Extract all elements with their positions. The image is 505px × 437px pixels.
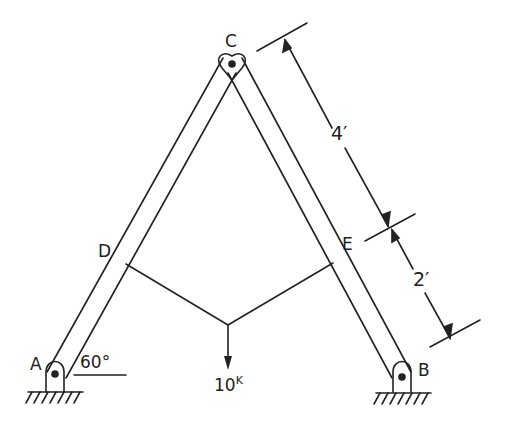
angle-label: 60° [80, 354, 110, 371]
member-cb-inner [228, 73, 392, 378]
load-value: 10 [214, 375, 236, 395]
dim-ext-mid [365, 214, 415, 241]
dim-4ft-line-lower [345, 148, 388, 226]
dim-4ft-label: 4′ [331, 124, 347, 143]
label-b: B [418, 362, 430, 379]
dim-2ft-label: 2′ [413, 270, 429, 289]
dim-ext-bottom [430, 320, 480, 347]
load-unit: K [236, 374, 243, 387]
dim-4ft-line-upper [285, 40, 332, 128]
label-d: D [98, 243, 111, 260]
member-ac-outer [47, 58, 223, 372]
load-label: 10K [214, 377, 243, 394]
dim-ext-top [257, 23, 307, 51]
member-ac-inner [66, 73, 236, 378]
label-c: C [225, 33, 237, 50]
label-e: E [342, 236, 353, 253]
cable [126, 263, 333, 325]
label-a: A [30, 356, 42, 373]
